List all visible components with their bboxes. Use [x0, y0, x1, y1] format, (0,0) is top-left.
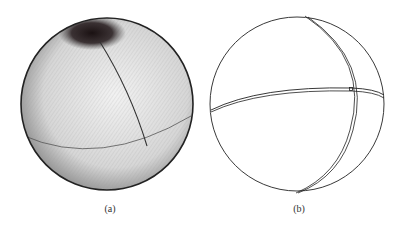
sphere-outline [210, 17, 384, 191]
panel-a: (a) [0, 0, 200, 228]
outline-sphere-figure [200, 0, 400, 228]
panel-b: (b) [200, 0, 400, 228]
caption-a: (a) [95, 203, 125, 214]
meridian-arc-outer [296, 16, 355, 193]
equator-arc-lower [211, 91, 384, 112]
dark-pole-region [58, 16, 126, 50]
caption-b: (b) [284, 203, 314, 214]
shaded-sphere-figure [0, 0, 200, 228]
meridian-arc-inner [298, 17, 357, 193]
